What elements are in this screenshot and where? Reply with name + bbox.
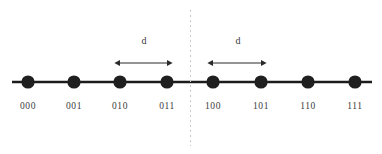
node-100 <box>206 75 219 88</box>
node-label-011: 011 <box>159 102 175 112</box>
node-label-100: 100 <box>205 102 221 112</box>
node-000 <box>21 75 34 88</box>
node-110 <box>301 75 314 88</box>
node-label-111: 111 <box>347 102 362 112</box>
codeword-number-line-figure: 000001010011100101110111 dd <box>0 0 382 154</box>
node-label-000: 000 <box>20 102 36 112</box>
figure-canvas <box>0 0 382 154</box>
node-label-101: 101 <box>253 102 269 112</box>
distance-label-0: d <box>142 36 147 46</box>
node-010 <box>113 75 126 88</box>
node-111 <box>348 75 361 88</box>
node-label-110: 110 <box>300 102 316 112</box>
node-001 <box>67 75 80 88</box>
distance-label-1: d <box>236 36 241 46</box>
node-011 <box>160 75 173 88</box>
node-label-010: 010 <box>112 102 128 112</box>
node-label-001: 001 <box>66 102 82 112</box>
node-101 <box>254 75 267 88</box>
